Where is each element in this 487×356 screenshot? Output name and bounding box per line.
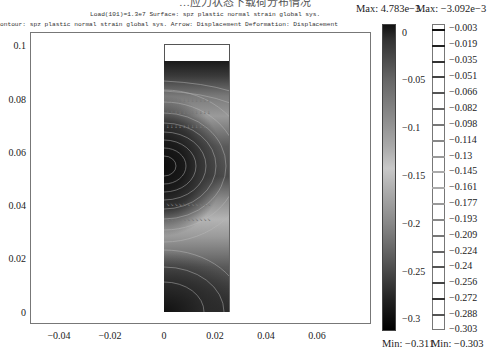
header-line-2: ontour: spz plastic normal strain global… — [0, 21, 338, 28]
contour-level-line — [432, 124, 445, 126]
contour-colorbar-tick: −0.145 — [449, 165, 477, 176]
contour-level-line — [432, 92, 445, 94]
contour-level-line — [432, 235, 445, 237]
y-tick: 0 — [0, 307, 26, 318]
x-tick: 0.02 — [195, 330, 235, 341]
contour-level-line — [432, 219, 445, 221]
contour-max-label: Max: −3.092e−3 — [416, 3, 486, 14]
contour-colorbar-tick: −0.272 — [449, 292, 477, 303]
contour-colorbar-tick: −0.114 — [449, 134, 477, 145]
displacement-arrows: ↓↓↓↓↓↓↓↓↓↓↓ — [166, 96, 228, 103]
y-tick: 0.06 — [0, 147, 26, 158]
contour-level-line — [432, 314, 445, 316]
contour-colorbar-tick: −0.224 — [449, 245, 477, 256]
surface-colorbar-tick: −0.3 — [402, 313, 420, 324]
contour-colorbar-tick: −0.161 — [449, 181, 477, 192]
contour-colorbar-tick: −0.13 — [449, 150, 472, 161]
x-tick: 0.04 — [246, 330, 286, 341]
contour-colorbar-tick: −0.256 — [449, 276, 477, 287]
contour-colorbar-tick: −0.24 — [449, 260, 472, 271]
contour-level-line — [432, 76, 445, 78]
contour-colorbar-tick: −0.051 — [449, 70, 477, 81]
contour-level-line — [432, 156, 445, 158]
surface-colorbar-tick: −0.25 — [402, 266, 425, 277]
surface-colorbar-tick: −0.05 — [402, 74, 425, 85]
surface-colorbar — [382, 24, 396, 331]
displacement-arrows: ↘↘↘↘↘↘↘↘↘↘↘ — [166, 200, 228, 207]
surface-min-label: Min: −0.311 — [382, 338, 434, 349]
contour-level-line — [432, 140, 445, 142]
contour-colorbar-tick: −0.288 — [449, 308, 477, 319]
contour-level-line — [432, 251, 445, 253]
displacement-arrows: ↘↘↘↘↘↘↘↘↘↘↘ — [166, 215, 228, 222]
contour-level-line — [432, 203, 445, 205]
contour-colorbar-tick: −0.019 — [449, 38, 477, 49]
contour-colorbar-tick: −0.003 — [449, 22, 477, 33]
surface-colorbar-tick: 0 — [402, 27, 407, 38]
y-tick: 0.1 — [0, 40, 26, 51]
contour-level-line — [432, 187, 445, 189]
contour-colorbar-tick: −0.303 — [449, 323, 477, 334]
contour-colorbar-tick: −0.082 — [449, 102, 477, 113]
y-tick: 0.02 — [0, 253, 26, 264]
contour-level-line — [432, 45, 445, 47]
x-tick: 0 — [144, 330, 184, 341]
contour-level-line — [432, 171, 445, 173]
contour-colorbar — [432, 24, 445, 330]
contour-level-line — [432, 108, 445, 110]
contour-level-line — [432, 282, 445, 284]
contour-level-line — [432, 61, 445, 63]
surface-colorbar-tick: −0.1 — [402, 122, 420, 133]
contour-level-line — [432, 298, 445, 300]
undeformed-domain-outline — [164, 44, 230, 62]
figure-title-partial: …应力状态下载荷分布情况 — [120, 0, 370, 9]
surface-max-label: Max: 4.783e−3 — [356, 3, 420, 14]
x-tick: −0.04 — [39, 330, 79, 341]
displacement-arrows: ↓↓↓↓↓↓↓↓↓↓↓ — [166, 108, 228, 115]
contour-colorbar-tick: −0.098 — [449, 118, 477, 129]
contour-min-label: Min: −0.303 — [431, 338, 484, 349]
displacement-arrows: ↓↓↓↓↓↓↓↓↓↓↓ — [166, 122, 228, 129]
contour-level-line — [432, 266, 445, 268]
surface-colorbar-tick: −0.2 — [402, 218, 420, 229]
y-tick: 0.04 — [0, 200, 26, 211]
surface-colorbar-tick: −0.15 — [402, 170, 425, 181]
contour-level-line — [432, 29, 445, 31]
contour-colorbar-tick: −0.209 — [449, 229, 477, 240]
contour-colorbar-tick: −0.066 — [449, 86, 477, 97]
contour-colorbar-tick: −0.193 — [449, 213, 477, 224]
x-tick: 0.06 — [297, 330, 337, 341]
header-line-1: Load(101)=1.3e7 Surface: spz plastic nor… — [90, 11, 320, 18]
contour-colorbar-tick: −0.177 — [449, 197, 477, 208]
y-tick: 0.08 — [0, 94, 26, 105]
x-tick: −0.02 — [90, 330, 130, 341]
contour-colorbar-tick: −0.035 — [449, 54, 477, 65]
